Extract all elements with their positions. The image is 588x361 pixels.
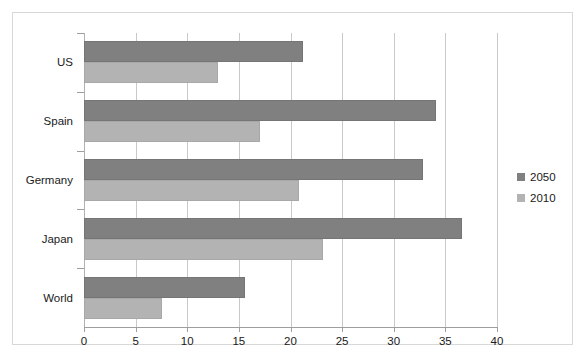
y-axis-tick-1 (77, 92, 84, 93)
x-axis-tick-30 (394, 327, 395, 332)
y-axis-label-world: World (43, 292, 73, 304)
chart-legend: 20502010 (517, 171, 556, 213)
x-axis-tick-35 (445, 327, 446, 332)
y-axis-tick-4 (77, 268, 84, 269)
bar-germany-2010 (84, 180, 299, 201)
bar-germany-2050 (84, 159, 423, 180)
y-axis-tick-2 (77, 151, 84, 152)
gridline-30 (394, 33, 395, 327)
y-axis-label-us: US (57, 56, 73, 68)
bar-world-2050 (84, 277, 245, 298)
legend-item-2050[interactable]: 2050 (517, 171, 556, 183)
x-axis-label-0: 0 (81, 335, 87, 347)
plot-area (84, 33, 497, 327)
bar-us-2010 (84, 62, 218, 83)
bar-world-2010 (84, 298, 162, 319)
x-axis-tick-5 (136, 327, 137, 332)
x-axis-label-35: 35 (439, 335, 452, 347)
x-axis-label-15: 15 (232, 335, 245, 347)
x-axis-tick-40 (497, 327, 498, 332)
y-axis-category-labels: USSpainGermanyJapanWorld (13, 13, 73, 346)
x-axis-label-5: 5 (132, 335, 138, 347)
gridline-25 (342, 33, 343, 327)
chart-frame: USSpainGermanyJapanWorld 051015202530354… (12, 12, 573, 345)
x-axis-label-40: 40 (491, 335, 504, 347)
x-axis-label-20: 20 (284, 335, 297, 347)
gridline-40 (497, 33, 498, 327)
x-axis-tick-25 (342, 327, 343, 332)
legend-swatch-icon-2050 (517, 173, 525, 181)
legend-swatch-icon-2010 (517, 194, 525, 202)
x-axis-tick-20 (291, 327, 292, 332)
bar-japan-2050 (84, 218, 462, 239)
x-axis-tick-0 (84, 327, 85, 332)
y-axis-label-japan: Japan (42, 233, 73, 245)
y-axis-tick-top (77, 33, 84, 34)
gridline-35 (445, 33, 446, 327)
bar-us-2050 (84, 41, 303, 62)
y-axis-tick-3 (77, 209, 84, 210)
bar-japan-2010 (84, 239, 323, 260)
legend-label-2010: 2010 (530, 192, 556, 204)
x-axis-tick-10 (187, 327, 188, 332)
y-axis-label-spain: Spain (44, 115, 73, 127)
legend-label-2050: 2050 (530, 171, 556, 183)
x-axis-tick-15 (239, 327, 240, 332)
bar-spain-2050 (84, 100, 436, 121)
x-axis-label-25: 25 (336, 335, 349, 347)
bar-spain-2010 (84, 121, 260, 142)
x-axis-label-10: 10 (181, 335, 194, 347)
legend-item-2010[interactable]: 2010 (517, 192, 556, 204)
y-axis-label-germany: Germany (26, 174, 73, 186)
x-axis-label-30: 30 (387, 335, 400, 347)
